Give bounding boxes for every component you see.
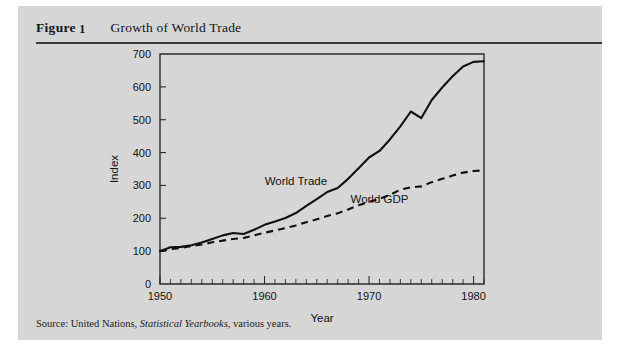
chart-plot-area: 0100200300400500600700 1950196019701980 … [18,6,602,340]
source-prefix: Source: United Nations, [36,318,137,329]
x-tick-label: 1960 [252,290,276,302]
x-tick-label: 1970 [357,290,381,302]
x-axis-ticks: 1950196019701980 [148,276,486,302]
series-label-world-gdp: World GDP [351,193,409,205]
series-labels: World TradeWorld GDP [265,175,409,204]
plot-frame [160,54,484,284]
y-tick-label: 400 [133,147,151,159]
y-axis-ticks: 0100200300400500600700 [133,48,166,290]
y-tick-label: 600 [133,81,151,93]
x-tick-label: 1980 [461,290,485,302]
figure-panel: Figure 1 Growth of World Trade 010020030… [18,6,602,340]
line-chart: 0100200300400500600700 1950196019701980 … [18,6,602,340]
series-paths [160,61,484,251]
series-line-world-trade [160,61,484,251]
y-tick-label: 500 [133,114,151,126]
source-suffix: , various years. [228,318,292,329]
plot-border [160,54,484,284]
series-label-world-trade: World Trade [265,175,327,187]
y-axis-title: Index [108,155,120,183]
source-note: Source: United Nations, Statistical Year… [36,318,291,329]
y-tick-label: 200 [133,212,151,224]
y-tick-label: 700 [133,48,151,60]
y-tick-label: 0 [145,278,151,290]
y-tick-label: 300 [133,179,151,191]
x-axis-title: Year [310,312,333,324]
source-publication: Statistical Yearbooks [140,318,228,329]
x-tick-label: 1950 [148,290,172,302]
y-tick-label: 100 [133,245,151,257]
